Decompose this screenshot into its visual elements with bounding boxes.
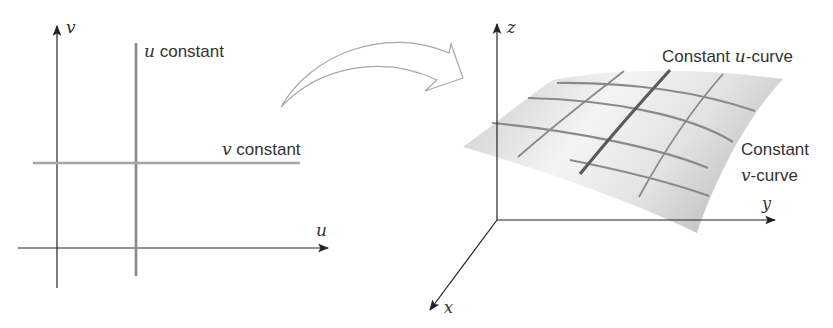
- constant-u-curve-label: Constant u-curve: [662, 46, 793, 66]
- constant-v-curve-label-line2: v-curve: [741, 165, 798, 185]
- constant-v-curve-label-line1: Constant: [741, 140, 809, 159]
- uv-plane-panel: v u u constant v constant: [18, 17, 328, 288]
- u-constant-label: u constant: [144, 41, 224, 61]
- v-axis-label: v: [66, 17, 76, 37]
- mapping-arrow: [281, 42, 463, 107]
- surface-patch: [463, 71, 783, 233]
- z-axis-label: z: [506, 18, 516, 37]
- curved-arrow-icon: [281, 42, 463, 107]
- x-axis: [430, 220, 497, 310]
- v-constant-label: v constant: [222, 139, 301, 159]
- x-axis-label: x: [444, 298, 453, 317]
- parametric-surface-figure: v u u constant v constant: [0, 0, 833, 328]
- xyz-surface-panel: z y x Constant u-curve Constant v-curve: [430, 18, 809, 317]
- y-axis-label: y: [761, 194, 772, 213]
- u-axis-label: u: [316, 220, 327, 240]
